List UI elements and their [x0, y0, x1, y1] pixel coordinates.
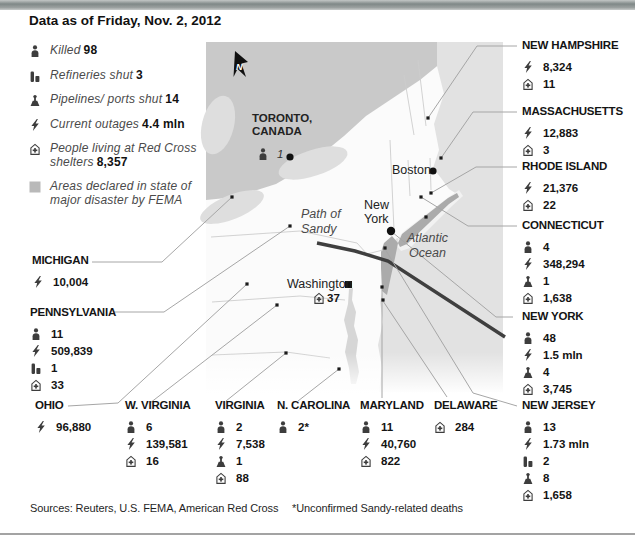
state-name: NEW JERSEY	[522, 399, 595, 411]
port-icon	[29, 94, 41, 106]
legend-row: Killed98	[29, 44, 209, 58]
shelter-icon	[30, 379, 42, 391]
stat-value: 4	[543, 366, 549, 378]
callout-connecticut: CONNECTICUT 4348,29411,638	[522, 219, 604, 304]
stat-value: 8	[543, 472, 549, 484]
stat-row: 139,581	[125, 438, 191, 450]
stat-row: 1	[215, 455, 265, 467]
state-name: W. VIRGINIA	[125, 399, 191, 411]
stat-value: 1	[543, 275, 549, 287]
legend-value: 14	[165, 92, 179, 106]
stat-row: 4	[522, 241, 604, 253]
state-stats: 27,538188	[215, 421, 265, 484]
shelter-icon	[522, 292, 534, 304]
legend-row: Refineries shut3	[29, 69, 209, 83]
state-name: N. CAROLINA	[277, 399, 350, 411]
washington-shelters-value: 37	[327, 292, 340, 304]
boston-label: Boston	[392, 163, 431, 177]
atlantic-ocean-label: Atlantic Ocean	[407, 231, 448, 261]
stat-value: 33	[51, 379, 64, 391]
state-stats: 284	[434, 421, 498, 433]
stat-row: 1	[30, 362, 116, 374]
stat-row: 8	[522, 472, 595, 484]
shelter-icon	[434, 421, 446, 433]
outage-icon	[35, 421, 47, 433]
stat-value: 12,883	[543, 127, 578, 139]
new-york-dot	[387, 227, 395, 235]
shelter-icon	[313, 292, 325, 304]
stat-row: 22	[522, 199, 607, 211]
state-stats: 1140,760822	[360, 421, 424, 467]
stat-row: 1,638	[522, 292, 604, 304]
legend-value: 98	[84, 43, 98, 57]
killed-icon	[277, 421, 289, 433]
state-stats: 2*	[277, 421, 350, 433]
outage-icon	[522, 61, 534, 73]
stat-value: 822	[381, 455, 400, 467]
killed-icon	[215, 421, 227, 433]
stat-value: 11	[51, 328, 63, 340]
stat-row: 284	[434, 421, 498, 433]
stat-value: 2	[543, 455, 549, 467]
refinery-icon	[30, 362, 42, 374]
stat-row: 2	[522, 455, 595, 467]
stat-value: 88	[236, 472, 249, 484]
stat-value: 13	[543, 421, 556, 433]
stat-row: 10,004	[32, 276, 89, 288]
stat-value: 4	[543, 241, 549, 253]
stat-value: 1	[51, 362, 57, 374]
state-name: RHODE ISLAND	[522, 160, 607, 172]
stat-row: 88	[215, 472, 265, 484]
legend-label: Pipelines/ ports shut14	[50, 93, 179, 107]
shelter-icon	[522, 199, 534, 211]
outage-icon	[522, 258, 534, 270]
outage-icon	[125, 438, 137, 450]
stat-value: 139,581	[146, 438, 188, 450]
legend-value: 3	[136, 68, 143, 82]
legend-label: Current outages4.4 mln	[50, 118, 185, 132]
stat-value: 7,538	[236, 438, 265, 450]
callout-w-virginia: W. VIRGINIA 6139,58116	[125, 399, 191, 467]
stat-value: 1,638	[543, 292, 572, 304]
stat-row: 96,880	[35, 421, 91, 433]
legend-row: Current outages4.4 mln	[29, 118, 209, 132]
state-stats: 12,8833	[522, 127, 623, 156]
legend-row: People living at Red Cross shelters8,357	[29, 142, 209, 169]
stat-row: 1.73 mln	[522, 438, 595, 450]
stat-row: 40,760	[360, 438, 424, 450]
state-name: MICHIGAN	[32, 254, 89, 266]
stat-row: 1	[522, 275, 604, 287]
legend-label: Areas declared in state of major disaste…	[50, 180, 208, 207]
outage-icon	[29, 119, 41, 131]
port-icon	[522, 275, 534, 287]
stat-row: 822	[360, 455, 424, 467]
toronto-label: TORONTO, CANADA	[252, 112, 312, 138]
callout-pennsylvania: PENNSYLVANIA 11509,839133	[30, 306, 116, 391]
callout-massachusetts: MASSACHUSETTS 12,8833	[522, 105, 623, 156]
stat-row: 2	[215, 421, 265, 433]
killed-icon	[30, 328, 42, 340]
stat-value: 1	[236, 455, 242, 467]
callout-virginia: VIRGINIA 27,538188	[215, 399, 265, 484]
callout-n-carolina: N. CAROLINA 2*	[277, 399, 350, 433]
stat-value: 2	[236, 421, 242, 433]
stat-row: 16	[125, 455, 191, 467]
state-name: NEW YORK	[522, 310, 583, 322]
stat-row: 11	[30, 328, 116, 340]
killed-icon	[522, 241, 534, 253]
stat-row: 12,883	[522, 127, 623, 139]
killed-icon	[360, 421, 372, 433]
legend-label: Refineries shut3	[50, 69, 143, 83]
stat-row: 3	[522, 144, 623, 156]
refinery-icon	[29, 70, 41, 82]
callout-michigan: MICHIGAN 10,004	[32, 254, 89, 288]
washington-label: Washington	[287, 277, 353, 291]
stat-row: 2*	[277, 421, 350, 433]
port-icon	[215, 455, 227, 467]
killed-icon	[522, 332, 534, 344]
new-york-label: New York	[364, 198, 389, 226]
stat-value: 40,760	[381, 438, 416, 450]
callout-ohio: OHIO 96,880	[35, 399, 91, 433]
refinery-icon	[522, 455, 534, 467]
stat-row: 48	[522, 332, 583, 344]
